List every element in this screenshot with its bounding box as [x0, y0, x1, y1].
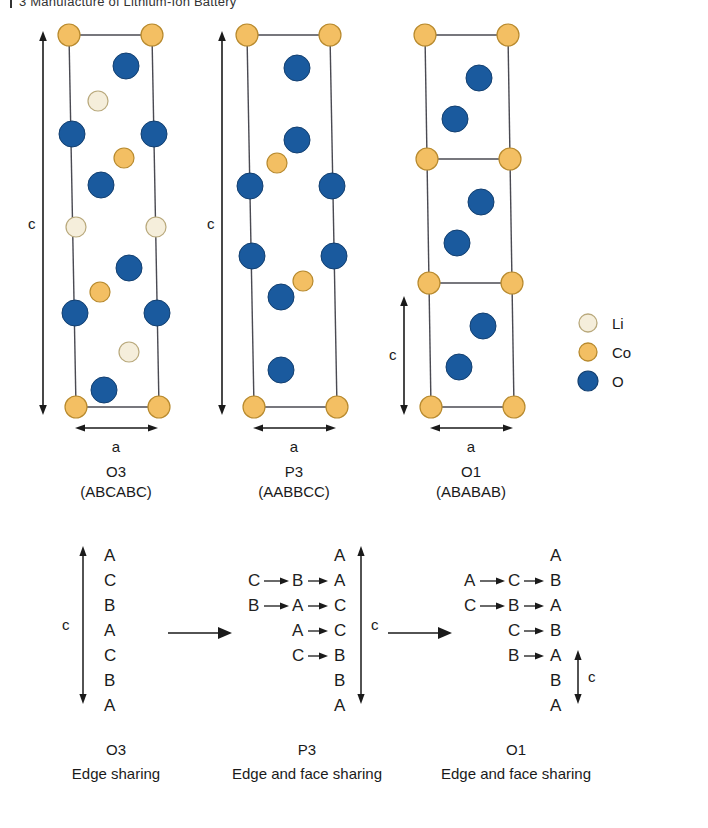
O1-layer-5: B: [550, 671, 561, 690]
O3-a-axis: a: [75, 424, 158, 455]
legend-label-Li: Li: [612, 315, 624, 332]
O3-seq-c-axis: c: [62, 546, 87, 704]
P3-layer-6: A: [334, 696, 346, 715]
P3-a-axis: a: [253, 424, 336, 455]
O3-layer-2: B: [104, 596, 115, 615]
O1-chain-1-1: C: [508, 571, 520, 590]
sequence-column-O3: c A C B A C B A O3 Edge sharing: [62, 546, 160, 782]
sequence-column-O1: A C C B C B A B A B A: [441, 546, 596, 782]
O1-layer-1: B: [550, 571, 561, 590]
O1-chain-4-0: B: [508, 646, 519, 665]
O3-seq-subtitle: Edge sharing: [72, 765, 160, 782]
structure-O3: c: [28, 24, 170, 500]
O3-layer-1: C: [104, 571, 116, 590]
P3-layer-1: A: [334, 571, 346, 590]
O1-chain-3-0: C: [508, 621, 520, 640]
O1-seq-subtitle: Edge and face sharing: [441, 765, 591, 782]
O1-name: O1: [461, 463, 481, 480]
legend: Li Co O: [578, 314, 631, 391]
P3-chain-4-0: C: [292, 646, 304, 665]
P3-layer-2: C: [334, 596, 346, 615]
legend-item-Co: Co: [579, 343, 631, 361]
O1-O-atoms: [442, 65, 496, 380]
O3-layer-5: B: [104, 671, 115, 690]
O3-stacking: (ABCABC): [80, 483, 152, 500]
O3-c-label: c: [28, 215, 36, 232]
O1-layer-4: A: [550, 646, 562, 665]
P3-c-axis: c: [207, 31, 226, 415]
O1-a-label: a: [467, 438, 476, 455]
P3-seq-subtitle: Edge and face sharing: [232, 765, 382, 782]
P3-chain-2-0: B: [248, 596, 259, 615]
structure-O1: c: [389, 24, 525, 500]
legend-item-O: O: [578, 371, 624, 391]
structure-P3: c a: [207, 24, 348, 500]
legend-label-O: O: [612, 373, 624, 390]
O1-chain-2-0: C: [464, 596, 476, 615]
O1-a-axis: a: [430, 424, 513, 455]
P3-seq-c-label: c: [371, 616, 379, 633]
P3-chain-2-1: A: [292, 596, 304, 615]
P3-chain-1-1: B: [292, 571, 303, 590]
P3-seq-title: P3: [298, 741, 316, 758]
O3-seq-title: O3: [106, 741, 126, 758]
P3-unit-cell: [247, 35, 337, 407]
O1-seq-c-label: c: [588, 668, 596, 685]
P3-seq-layers: A A C C B B A: [334, 546, 346, 715]
O1-layer-3: B: [550, 621, 561, 640]
O1-chain-2-1: B: [508, 596, 519, 615]
O1-seq-c-axis: c: [574, 650, 596, 704]
P3-layer-0: A: [334, 546, 346, 565]
O3-c-axis: c: [28, 31, 47, 415]
crystal-structure-figure: c: [0, 0, 708, 828]
O1-c-label: c: [389, 346, 397, 363]
P3-a-label: a: [290, 438, 299, 455]
P3-chains: C B B A A C: [248, 571, 328, 665]
O3-layer-4: C: [104, 646, 116, 665]
legend-item-Li: Li: [579, 314, 624, 332]
O3-layer-0: A: [104, 546, 116, 565]
transition-arrow-2: [388, 627, 452, 639]
O1-chains: A C C B C B: [464, 571, 544, 665]
P3-stacking: (AABBCC): [258, 483, 330, 500]
O3-layer-3: A: [104, 621, 116, 640]
O3-a-label: a: [112, 438, 121, 455]
O1-unit-cells: [425, 35, 514, 407]
P3-seq-c-axis: c: [357, 546, 379, 704]
P3-c-label: c: [207, 215, 215, 232]
P3-layer-3: C: [334, 621, 346, 640]
O1-chain-1-0: A: [464, 571, 476, 590]
P3-layer-4: B: [334, 646, 345, 665]
O1-layer-0: A: [550, 546, 562, 565]
P3-O-atoms: [237, 55, 347, 383]
transition-arrow-1: [168, 627, 232, 639]
sequence-column-P3: C B B A A C A A C C: [232, 546, 382, 782]
O3-layer-6: A: [104, 696, 116, 715]
P3-name: P3: [285, 463, 303, 480]
O1-layer-6: A: [550, 696, 562, 715]
O3-name: O3: [106, 463, 126, 480]
O1-seq-title: O1: [506, 741, 526, 758]
O1-layer-2: A: [550, 596, 562, 615]
legend-label-Co: Co: [612, 344, 631, 361]
O3-seq-c-label: c: [62, 616, 70, 633]
P3-chain-1-0: C: [248, 571, 260, 590]
O3-seq-layers: A C B A C B A: [104, 546, 116, 715]
O1-stacking: (ABABAB): [436, 483, 506, 500]
O1-c-axis: c: [389, 296, 408, 415]
P3-layer-5: B: [334, 671, 345, 690]
O1-seq-layers: A B A B A B A: [550, 546, 562, 715]
P3-chain-3-0: A: [292, 621, 304, 640]
